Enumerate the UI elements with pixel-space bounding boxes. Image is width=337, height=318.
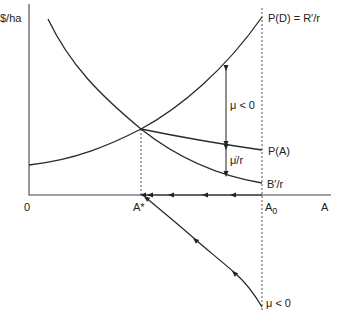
y-axis-label: $/ha xyxy=(0,12,22,24)
diagram: $/ha 0 A A* A0 P(D) = R′/r P(A) B′/r μ <… xyxy=(0,0,337,318)
axes xyxy=(29,4,331,195)
x-axis-label: A xyxy=(321,201,329,213)
pd-curve xyxy=(29,17,262,165)
pa-label: P(A) xyxy=(268,145,290,157)
br-label: B′/r xyxy=(267,178,283,190)
mu-neg-bottom-label: μ < 0 xyxy=(266,297,291,309)
a0-label: A0 xyxy=(265,201,277,216)
trajectory-curve xyxy=(145,197,262,307)
mu-dot-label: μ̇/r xyxy=(230,154,243,166)
a-star-label: A* xyxy=(133,201,145,213)
origin-label: 0 xyxy=(24,201,30,213)
mu-neg-top-label: μ < 0 xyxy=(230,99,255,111)
pd-label: P(D) = R′/r xyxy=(268,12,320,24)
pa-curve xyxy=(141,129,262,150)
